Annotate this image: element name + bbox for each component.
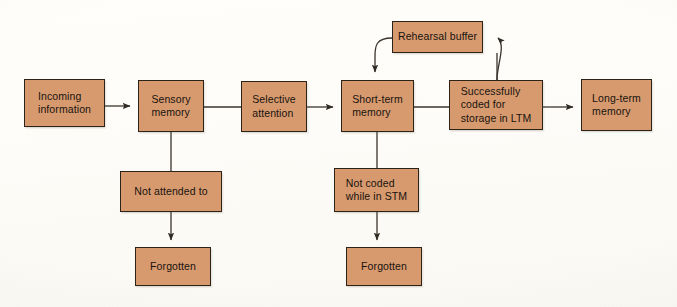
node-short-term-memory: Short-term memory xyxy=(341,80,414,132)
node-label: Forgotten xyxy=(150,260,196,273)
node-sensory-memory: Sensory memory xyxy=(138,80,204,132)
node-rehearsal-buffer: Rehearsal buffer xyxy=(392,21,483,53)
node-label: Successfully coded for storage in LTM xyxy=(461,85,532,125)
node-successfully-coded-for-storage-in-ltm: Successfully coded for storage in LTM xyxy=(449,80,543,130)
node-selective-attention: Selective attention xyxy=(241,81,307,132)
node-incoming-information: Incoming information xyxy=(24,79,105,127)
node-label: Not attended to xyxy=(134,185,207,198)
node-label: Long-term memory xyxy=(592,92,641,119)
node-label: Not coded while in STM xyxy=(346,177,407,204)
node-label: Selective attention xyxy=(252,93,296,120)
node-not-coded-while-in-stm: Not coded while in STM xyxy=(334,168,419,212)
node-long-term-memory: Long-term memory xyxy=(581,79,652,131)
node-label: Forgotten xyxy=(361,260,407,273)
connector-layer xyxy=(0,0,677,307)
connector-rehearsal-buffer-to-stm xyxy=(375,38,392,72)
memory-flowchart-diagram: Incoming information Sensory memory Sele… xyxy=(0,0,677,307)
node-label: Rehearsal buffer xyxy=(398,30,477,43)
node-forgotten-sensory: Forgotten xyxy=(135,247,211,286)
node-not-attended-to: Not attended to xyxy=(120,171,222,212)
node-label: Short-term memory xyxy=(352,93,403,120)
node-label: Incoming information xyxy=(38,90,91,117)
node-forgotten-stm: Forgotten xyxy=(346,247,422,286)
node-label: Sensory memory xyxy=(151,93,190,120)
